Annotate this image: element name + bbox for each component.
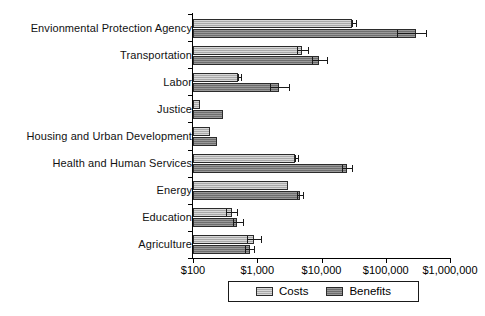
y-axis-tick [188,150,192,151]
error-bar-cap [254,246,255,253]
error-bar-cap [247,236,248,243]
error-bar-cap [356,20,357,27]
x-axis-tick [386,259,387,263]
error-bar-cap [243,219,244,226]
bar-costs-0 [193,19,352,28]
bar-benefits-0 [193,29,416,38]
bar-costs-4 [193,127,210,136]
error-bar-line [342,168,352,169]
category-label: Labor [163,76,192,88]
error-bar-cap [352,165,353,172]
error-bar-cap [261,236,262,243]
bar-costs-1 [193,46,302,55]
error-bar-line [397,33,426,34]
error-bar-cap [233,219,234,226]
error-bar-cap [352,20,353,27]
bar-benefits-5 [193,164,347,173]
legend-swatch-costs [256,287,273,296]
error-bar-cap [303,192,304,199]
plot-area [193,14,450,258]
y-axis-tick [188,122,192,123]
error-bar-cap [397,30,398,37]
x-axis-tick-label: $100 [181,264,205,277]
error-bar-cap [241,74,242,81]
bar-costs-2 [193,73,238,82]
bar-benefits-7 [193,218,237,227]
error-bar-cap [245,246,246,253]
y-axis-tick [188,204,192,205]
y-axis-tick [188,258,192,259]
error-bar-cap [426,30,427,37]
error-bar-line [226,212,236,213]
bar-costs-6 [193,181,288,190]
category-label: Envionmental Protection Agency [31,22,192,34]
error-bar-cap [295,155,296,162]
error-bar-cap [226,209,227,216]
y-axis-tick [188,41,192,42]
error-bar-cap [297,47,298,54]
bar-costs-8 [193,235,254,244]
category-label: Housing and Urban Development [26,130,192,142]
legend-label-costs: Costs [279,285,308,298]
legend-entry-benefits[interactable]: Benefits [326,285,391,298]
error-bar-cap [297,192,298,199]
bar-benefits-2 [193,83,279,92]
y-axis-tick [188,177,192,178]
bar-benefits-1 [193,56,319,65]
x-axis-tick-label: $1,000,000 [422,264,477,277]
category-label: Justice [157,103,192,115]
category-label: Education [142,211,192,223]
x-axis-tick-label: $10,000 [302,264,342,277]
legend-entry-costs[interactable]: Costs [256,285,308,298]
error-bar-line [233,222,243,223]
error-bar-cap [237,209,238,216]
error-bar-line [297,50,308,51]
legend-label-benefits: Benefits [349,285,391,298]
error-bar-line [245,249,255,250]
bar-benefits-6 [193,191,300,200]
x-axis-tick [257,259,258,263]
error-bar-cap [342,165,343,172]
x-axis-tick [322,259,323,263]
chart-legend: CostsBenefits [228,281,419,302]
x-axis-tick-label: $1,000 [240,264,274,277]
x-axis-tick [193,259,194,263]
y-axis-tick [188,231,192,232]
error-bar-line [247,239,261,240]
bar-costs-3 [193,100,200,109]
error-bar-cap [308,47,309,54]
x-axis-tick-label: $100,000 [363,264,409,277]
x-axis-tick [450,259,451,263]
error-bar-cap [298,155,299,162]
category-label: Agriculture [138,238,192,250]
error-bar-cap [270,84,271,91]
error-bar-line [270,87,288,88]
y-axis-tick [188,14,192,15]
bar-benefits-4 [193,137,217,146]
bar-costs-5 [193,154,295,163]
error-bar-line [312,60,327,61]
category-label: Health and Human Services [53,157,192,169]
category-label: Energy [157,184,192,196]
chart-container: Envionmental Protection AgencyTransporta… [0,0,485,316]
category-label: Transportation [120,49,192,61]
legend-swatch-benefits [326,287,343,296]
y-axis-tick [188,95,192,96]
bar-benefits-8 [193,245,250,254]
bar-benefits-3 [193,110,223,119]
error-bar-cap [289,84,290,91]
error-bar-cap [238,74,239,81]
error-bar-cap [312,57,313,64]
error-bar-cap [327,57,328,64]
y-axis-tick [188,68,192,69]
